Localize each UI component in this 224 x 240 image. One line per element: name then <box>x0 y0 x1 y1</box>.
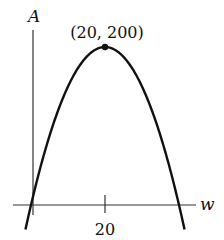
parabola-chart: A w 20 (20, 200) <box>0 0 224 240</box>
x-axis-label: w <box>200 194 215 214</box>
y-axis-label: A <box>26 6 40 26</box>
x-tick-label-20: 20 <box>95 220 115 239</box>
vertex-label: (20, 200) <box>70 23 144 42</box>
vertex-point <box>102 44 108 50</box>
